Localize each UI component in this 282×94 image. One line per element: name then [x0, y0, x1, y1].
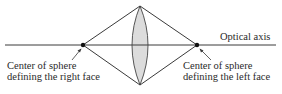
right-center-label-line1: Center of sphere — [183, 60, 252, 71]
left-center-point — [81, 43, 85, 47]
right-center-label-line2: defining the left face — [183, 71, 270, 82]
radius-line-right-top — [140, 6, 197, 45]
optical-axis-label: Optical axis — [220, 31, 270, 42]
lens-diagram: Optical axis Center of sphere defining t… — [0, 0, 282, 94]
right-center-point — [195, 43, 199, 47]
left-center-label-line2: defining the right face — [7, 71, 100, 82]
left-center-label-line1: Center of sphere — [7, 60, 76, 71]
radius-line-left-top — [83, 6, 140, 45]
left-pointer-arrowhead-icon — [78, 49, 82, 53]
